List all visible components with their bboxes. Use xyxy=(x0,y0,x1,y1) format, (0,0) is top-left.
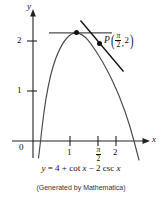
y-axis-label: y xyxy=(27,2,31,11)
x-axis-label: x xyxy=(152,135,156,144)
equation-part-2: − 2 csc xyxy=(86,163,116,173)
pi-over-2-fraction: π 2 xyxy=(96,146,102,162)
origin-label: 0 xyxy=(19,143,24,152)
point-name: P xyxy=(104,36,110,46)
equation-var-2: x xyxy=(116,163,120,173)
open-paren: ( xyxy=(111,32,115,49)
point-label-P: P ( π 2 , 2 ) xyxy=(104,32,135,49)
mathematica-plot-figure: y x 0 2 1 1 π 2 2 P ( π 2 , 2 ) y = 4 + … xyxy=(0,0,162,205)
y-axis-ticks xyxy=(27,41,37,91)
two-denominator: 2 xyxy=(96,155,102,163)
point-y-value: 2 xyxy=(125,36,130,45)
equation-part-1: = 4 + cot xyxy=(46,163,83,173)
x-tick-label-pi-over-2: π 2 xyxy=(93,146,104,162)
y-tick-label-2: 2 xyxy=(17,36,22,45)
point-P-marker xyxy=(97,41,102,46)
figure-caption: (Generated by Mathematica) xyxy=(0,184,162,191)
maximum-point-marker xyxy=(74,30,79,35)
x-tick-label-1: 1 xyxy=(67,148,72,157)
y-axis xyxy=(30,9,36,158)
close-paren: ) xyxy=(130,32,134,49)
equation-text: y = 4 + cot x − 2 csc x xyxy=(0,163,162,173)
x-tick-label-2: 2 xyxy=(113,148,118,157)
plot-canvas xyxy=(0,0,162,205)
y-tick-label-1: 1 xyxy=(17,86,22,95)
